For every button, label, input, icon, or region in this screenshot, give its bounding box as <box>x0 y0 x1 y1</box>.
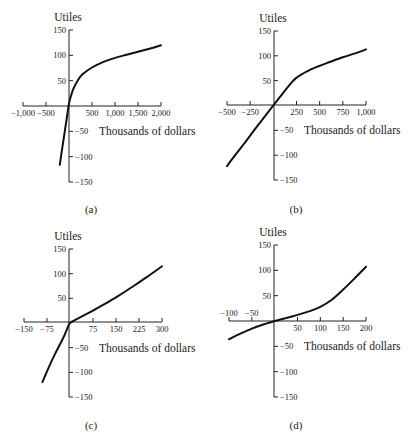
y-tick-label: −100 <box>75 367 93 377</box>
x-tick-label: −250 <box>241 107 259 117</box>
x-tick-label: 200 <box>360 323 373 333</box>
panel-caption: (b) <box>290 203 303 216</box>
y-tick-label: 150 <box>53 244 66 254</box>
y-tick-label: −100 <box>280 150 298 160</box>
y-tick-label: −150 <box>280 175 298 185</box>
y-tick-label: 100 <box>258 265 271 275</box>
y-tick-label: −150 <box>75 392 93 402</box>
y-axis-title: Utiles <box>54 230 82 242</box>
chart-panel-b: −500−2502505007501,000−150−100−505010015… <box>218 12 401 216</box>
y-tick-label: 100 <box>258 51 271 61</box>
x-tick-label: 2,000 <box>151 108 170 118</box>
y-tick-label: −50 <box>280 125 293 135</box>
y-tick-label: 100 <box>53 50 66 60</box>
x-tick-label: 1,500 <box>128 108 147 118</box>
y-tick-label: 150 <box>53 25 66 35</box>
y-tick-label: −50 <box>75 343 88 353</box>
y-tick-label: 50 <box>263 291 272 301</box>
x-tick-label: 150 <box>110 324 123 334</box>
x-axis-title: Thousands of dollars <box>99 125 196 137</box>
y-tick-label: 150 <box>258 240 271 250</box>
utility-curves-figure: −1,000−5005001,0001,5002,000−150−100−505… <box>0 0 409 437</box>
x-tick-label: 100 <box>314 323 327 333</box>
y-tick-label: 50 <box>58 76 67 86</box>
y-axis-title: Utiles <box>259 12 287 24</box>
x-tick-label: −75 <box>40 324 53 334</box>
y-axis-title: Utiles <box>259 226 287 238</box>
y-tick-label: 150 <box>258 26 271 36</box>
x-tick-label: 75 <box>89 324 98 334</box>
y-tick-label: −150 <box>280 392 298 402</box>
y-tick-label: −50 <box>75 126 88 136</box>
x-tick-label: 300 <box>156 324 169 334</box>
x-tick-label: 750 <box>336 107 349 117</box>
x-tick-label: 1,000 <box>105 108 124 118</box>
utility-curve <box>60 45 161 165</box>
chart-panel-a: −1,000−5005001,0001,5002,000−150−100−505… <box>11 11 196 216</box>
x-tick-label: 1,000 <box>356 107 375 117</box>
x-axis-title: Thousands of dollars <box>99 342 196 354</box>
x-tick-label: −500 <box>218 107 236 117</box>
x-tick-label: −1,000 <box>11 108 35 118</box>
y-tick-label: −100 <box>75 152 93 162</box>
x-tick-label: 225 <box>133 324 146 334</box>
y-tick-label: −100 <box>280 367 298 377</box>
y-tick-label: −50 <box>280 341 293 351</box>
x-tick-label: −50 <box>245 308 258 318</box>
y-axis-title: Utiles <box>54 11 82 23</box>
x-axis-title: Thousands of dollars <box>304 340 401 352</box>
x-tick-label: 150 <box>337 323 350 333</box>
x-axis-title: Thousands of dollars <box>304 124 401 136</box>
x-tick-label: −100 <box>220 308 238 318</box>
x-tick-label: 500 <box>86 108 99 118</box>
y-tick-label: 100 <box>53 269 66 279</box>
x-tick-label: 250 <box>290 107 303 117</box>
chart-panel-d: −100−5050100150200−150−100−5050100150Uti… <box>220 226 401 432</box>
panel-caption: (c) <box>85 419 98 432</box>
x-tick-label: 500 <box>313 107 326 117</box>
x-tick-label: 50 <box>293 323 302 333</box>
y-tick-label: −150 <box>75 177 93 187</box>
chart-panel-c: −150−7575150225300−150−100−5050100150Uti… <box>15 230 196 432</box>
y-tick-label: 50 <box>263 76 272 86</box>
panel-caption: (a) <box>85 203 98 216</box>
figure-canvas: −1,000−5005001,0001,5002,000−150−100−505… <box>0 0 409 437</box>
x-tick-label: −500 <box>37 108 55 118</box>
y-tick-label: 50 <box>58 293 67 303</box>
x-tick-label: −150 <box>15 324 33 334</box>
panel-caption: (d) <box>290 419 303 432</box>
